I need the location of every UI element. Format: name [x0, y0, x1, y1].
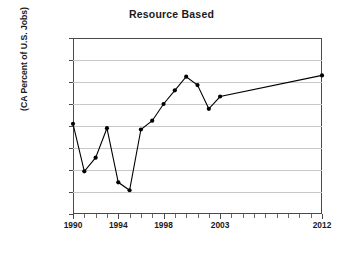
x-tick-mark: [265, 214, 266, 218]
x-tick-mark: [96, 214, 97, 218]
x-tick-label: 2012: [313, 220, 332, 230]
series-line: [73, 75, 322, 190]
x-tick-mark: [73, 214, 74, 219]
x-tick-mark: [175, 214, 176, 218]
data-point: [320, 73, 324, 77]
y-axis-title: (CA Percent of U.S. Jobs): [19, 0, 29, 139]
data-point: [218, 94, 222, 98]
data-point: [71, 122, 75, 126]
data-point: [195, 83, 199, 87]
x-tick-mark: [164, 214, 165, 219]
data-point: [207, 107, 211, 111]
data-point: [173, 88, 177, 92]
data-point: [105, 126, 109, 130]
x-tick-label: 1998: [154, 220, 173, 230]
plot-wrap: 17.0%16.5%16.0%15.5%15.0%14.5%14.0%13.5%…: [73, 38, 322, 214]
data-point: [161, 102, 165, 106]
x-tick-mark: [141, 214, 142, 218]
data-point: [139, 127, 143, 131]
data-point: [127, 188, 131, 192]
series-markers: [71, 73, 324, 192]
x-tick-mark: [186, 214, 187, 218]
x-tick-label: 1994: [109, 220, 128, 230]
x-tick-mark: [209, 214, 210, 218]
x-tick-mark: [107, 214, 108, 218]
data-point: [94, 156, 98, 160]
x-tick-label: 1990: [64, 220, 83, 230]
x-tick-mark: [198, 214, 199, 218]
x-tick-mark: [152, 214, 153, 218]
x-tick-mark: [130, 214, 131, 218]
x-tick-mark: [220, 214, 221, 219]
data-point: [184, 75, 188, 79]
data-point: [82, 169, 86, 173]
x-tick-mark: [311, 214, 312, 218]
x-tick-mark: [84, 214, 85, 218]
x-tick-mark: [243, 214, 244, 218]
chart-container: Resource Based (CA Percent of U.S. Jobs)…: [0, 0, 343, 254]
x-tick-mark: [231, 214, 232, 218]
x-tick-mark: [254, 214, 255, 218]
x-tick-label: 2003: [211, 220, 230, 230]
data-point: [116, 180, 120, 184]
data-series: [73, 38, 322, 214]
chart-title: Resource Based: [0, 8, 343, 20]
x-tick-mark: [277, 214, 278, 218]
x-tick-mark: [299, 214, 300, 218]
x-tick-mark: [288, 214, 289, 218]
data-point: [150, 119, 154, 123]
x-tick-mark: [322, 214, 323, 219]
x-tick-mark: [118, 214, 119, 219]
